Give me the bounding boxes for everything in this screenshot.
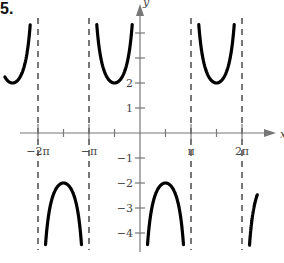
curve-branch (46, 183, 82, 245)
y-tick-label: −3 (117, 202, 133, 215)
curve-branch (250, 195, 258, 245)
curve-branch (97, 25, 132, 83)
curve-branch (199, 25, 234, 83)
x-axis-arrow-icon (264, 129, 276, 137)
y-axis-label: y (142, 0, 150, 9)
y-tick-label: −2 (117, 177, 133, 190)
ticks: −2π−ππ2π21−1−2−3−4 (26, 33, 249, 240)
y-tick-label: −4 (117, 227, 133, 240)
x-tick-label: −2π (26, 145, 49, 158)
graph-figure: 5. xy −2π−ππ2π21−1−2−3−4 (0, 0, 284, 263)
curve-branch (5, 25, 30, 83)
x-tick-label: 2π (235, 145, 249, 158)
x-tick-label: π (187, 145, 194, 158)
x-axis-label: x (280, 128, 284, 141)
y-tick-label: −1 (117, 152, 133, 165)
y-tick-label: 1 (126, 102, 133, 115)
problem-label: 5. (0, 0, 13, 17)
x-tick-label: −π (81, 145, 97, 158)
curve-branch (148, 183, 184, 245)
y-tick-label: 2 (126, 77, 133, 90)
plot-canvas: 5. xy −2π−ππ2π21−1−2−3−4 (0, 0, 284, 263)
